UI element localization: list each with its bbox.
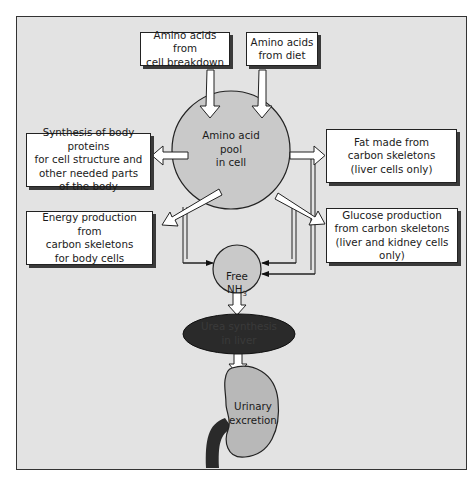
label-diet: Amino acids from diet bbox=[251, 36, 314, 63]
label-urea-synthesis: Urea synthesis in liver bbox=[194, 320, 284, 347]
box-glucose: Glucose production from carbon skeletons… bbox=[326, 208, 458, 263]
arrow-to-fat bbox=[290, 146, 325, 165]
box-amino-acids-diet: Amino acids from diet bbox=[246, 32, 318, 66]
label-free-nh3: Free NH3 bbox=[213, 256, 261, 302]
box-amino-acids-cell-breakdown: Amino acids from cell breakdown bbox=[140, 32, 230, 66]
arrow-to-glucose bbox=[275, 193, 325, 225]
box-fat: Fat made from carbon skeletons (liver ce… bbox=[326, 129, 457, 183]
amino-acid-metabolism-diagram: Amino acids from cell breakdown Amino ac… bbox=[0, 0, 476, 487]
label-amino-acid-pool: Amino acid pool in cell bbox=[191, 129, 271, 170]
label-protein-synthesis: Synthesis of body proteins for cell stru… bbox=[29, 126, 148, 194]
label-fat: Fat made from carbon skeletons (liver ce… bbox=[348, 136, 436, 177]
connector-energy-to-nh3 bbox=[183, 207, 212, 263]
label-nh3-subscript: 3 bbox=[242, 290, 246, 298]
connector-glucose-to-nh3 bbox=[263, 205, 296, 263]
label-energy-production: Energy production from carbon skeletons … bbox=[29, 211, 150, 265]
label-urinary-excretion: Urinary excretion bbox=[226, 400, 280, 427]
label-cell-breakdown: Amino acids from cell breakdown bbox=[143, 29, 227, 70]
box-energy-production: Energy production from carbon skeletons … bbox=[26, 211, 153, 265]
box-protein-synthesis: Synthesis of body proteins for cell stru… bbox=[26, 133, 151, 187]
label-glucose: Glucose production from carbon skeletons… bbox=[329, 209, 455, 263]
